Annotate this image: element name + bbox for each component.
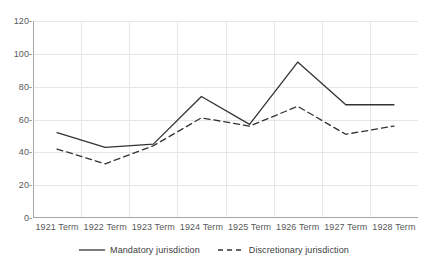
y-tick-mark bbox=[29, 87, 32, 88]
y-tick-mark bbox=[29, 152, 32, 153]
y-tick-label: 60 bbox=[3, 116, 29, 125]
y-tick-mark bbox=[29, 54, 32, 55]
series-line-discretionary bbox=[57, 106, 394, 163]
chart-legend: Mandatory jurisdiction Discretionary jur… bbox=[0, 243, 428, 257]
legend-swatch-dashed-icon bbox=[218, 246, 244, 254]
plot-area bbox=[33, 21, 418, 218]
x-tick-label: 1928 Term bbox=[364, 222, 424, 233]
series-line-mandatory bbox=[57, 62, 394, 147]
series-layer bbox=[33, 21, 418, 218]
y-tick-mark bbox=[29, 120, 32, 121]
y-tick-label: 20 bbox=[3, 181, 29, 190]
legend-entry-discretionary: Discretionary jurisdiction bbox=[218, 245, 349, 255]
legend-label-discretionary: Discretionary jurisdiction bbox=[249, 245, 349, 255]
y-tick-mark bbox=[29, 185, 32, 186]
y-tick-label: 120 bbox=[3, 17, 29, 26]
y-tick-mark bbox=[29, 218, 32, 219]
y-tick-label: 100 bbox=[3, 50, 29, 59]
x-axis: 1921 Term1922 Term1923 Term1924 Term1925… bbox=[33, 222, 418, 236]
y-tick-label: 40 bbox=[3, 148, 29, 157]
line-chart: 020406080100120 1921 Term1922 Term1923 T… bbox=[0, 0, 428, 268]
y-tick-label: 0 bbox=[3, 214, 29, 223]
legend-swatch-solid-icon bbox=[79, 246, 105, 254]
y-axis: 020406080100120 bbox=[0, 21, 29, 218]
legend-label-mandatory: Mandatory jurisdiction bbox=[110, 245, 200, 255]
legend-entry-mandatory: Mandatory jurisdiction bbox=[79, 245, 200, 255]
y-tick-label: 80 bbox=[3, 83, 29, 92]
y-tick-mark bbox=[29, 21, 32, 22]
